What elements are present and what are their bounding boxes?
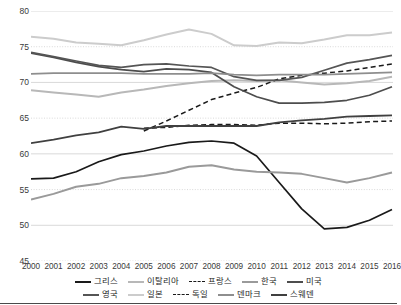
series-layer (31, 11, 393, 261)
x-axis-tick-label: 2007 (180, 262, 198, 271)
x-axis-tick-label: 2014 (338, 262, 356, 271)
series-line (31, 72, 392, 75)
x-axis-tick-label: 2015 (360, 262, 378, 271)
legend-bottom-divider (0, 303, 397, 304)
legend-item[interactable]: 덴마크 (218, 290, 261, 299)
legend-item[interactable]: 그리스 (75, 277, 118, 286)
legend-item[interactable]: 프랑스 (189, 277, 232, 286)
plot-area (31, 11, 393, 261)
x-axis-tick-label: 2003 (90, 262, 108, 271)
legend-swatch-icon (242, 281, 258, 283)
chart-legend: 그리스이탈리아프랑스한국미국영국일본독일덴마크스웨덴 (0, 275, 397, 303)
legend-swatch-icon (128, 281, 144, 283)
x-axis: 2000200120022003200420052006200720082009… (31, 262, 393, 274)
legend-label: 미국 (306, 277, 322, 286)
x-axis-tick-label: 2004 (112, 262, 130, 271)
chart-top-border (0, 0, 397, 1)
x-axis-tick-label: 2013 (315, 262, 333, 271)
legend-label: 이탈리아 (147, 277, 179, 286)
x-axis-tick-label: 2005 (135, 262, 153, 271)
x-axis-tick-label: 2002 (67, 262, 85, 271)
legend-swatch-icon (75, 281, 91, 283)
legend-label: 일본 (147, 290, 163, 299)
legend-swatch-icon (189, 281, 205, 282)
y-axis-tick-label: 55 (3, 186, 29, 194)
legend-label: 영국 (102, 290, 118, 299)
legend-row: 영국일본독일덴마크스웨덴 (0, 288, 397, 301)
x-axis-tick-label: 2006 (157, 262, 175, 271)
x-axis-tick-label: 2010 (248, 262, 266, 271)
legend-label: 그리스 (94, 277, 118, 286)
x-axis-tick-label: 2011 (270, 262, 288, 271)
legend-item[interactable]: 스웨덴 (271, 290, 314, 299)
legend-item[interactable]: 미국 (287, 277, 322, 286)
legend-swatch-icon (287, 281, 303, 283)
legend-swatch-icon (128, 294, 144, 296)
x-axis-tick-label: 2012 (293, 262, 311, 271)
legend-swatch-icon (271, 294, 287, 296)
x-axis-tick-label: 2009 (225, 262, 243, 271)
legend-label: 독일 (192, 290, 208, 299)
legend-swatch-icon (173, 294, 189, 295)
legend-label: 한국 (261, 277, 277, 286)
legend-row: 그리스이탈리아프랑스한국미국 (0, 275, 397, 288)
legend-item[interactable]: 일본 (128, 290, 163, 299)
legend-item[interactable]: 독일 (173, 290, 208, 299)
y-axis-tick-label: 50 (3, 221, 29, 229)
legend-item[interactable]: 이탈리아 (128, 277, 179, 286)
x-axis-tick-label: 2016 (383, 262, 401, 271)
x-axis-tick-label: 2001 (44, 262, 62, 271)
legend-item[interactable]: 한국 (242, 277, 277, 286)
legend-swatch-icon (218, 294, 234, 296)
y-axis-tick-label: 60 (3, 150, 29, 158)
x-axis-tick-label: 2008 (202, 262, 220, 271)
series-line (31, 30, 392, 46)
series-line (31, 52, 392, 80)
y-axis-tick-label: 70 (3, 78, 29, 86)
x-axis-tick-label: 2000 (22, 262, 40, 271)
legend-item[interactable]: 영국 (83, 290, 118, 299)
y-axis-tick-label: 65 (3, 114, 29, 122)
series-line (31, 115, 392, 143)
series-line (31, 165, 392, 199)
series-line (31, 77, 392, 97)
y-axis-tick-label: 75 (3, 43, 29, 51)
legend-label: 덴마크 (237, 290, 261, 299)
legend-label: 프랑스 (208, 277, 232, 286)
y-axis: 4550556065707580 (0, 11, 29, 261)
y-axis-tick-label: 80 (3, 7, 29, 15)
legend-swatch-icon (83, 294, 99, 296)
legend-label: 스웨덴 (290, 290, 314, 299)
